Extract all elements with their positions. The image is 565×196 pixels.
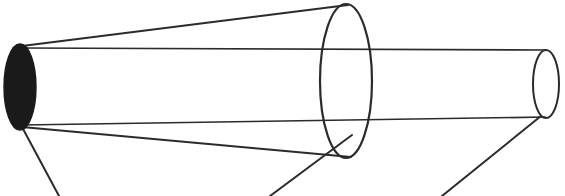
- figure-root: [0, 0, 565, 196]
- beam-geometry-diagram: [0, 0, 565, 196]
- source-aperture-ellipse: [4, 44, 36, 130]
- figure-background: [0, 0, 565, 196]
